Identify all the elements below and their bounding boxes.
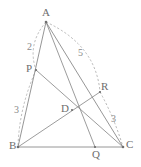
point-label-q: Q bbox=[92, 149, 100, 160]
cevian-b-r bbox=[18, 92, 100, 147]
point-label-b: B bbox=[9, 140, 16, 151]
measure-label-ap: 2 bbox=[27, 42, 32, 52]
side-ab bbox=[18, 22, 46, 147]
point-label-p: P bbox=[26, 63, 32, 74]
point-label-c: C bbox=[126, 139, 133, 150]
figure-canvas bbox=[0, 0, 141, 167]
vertex-dot-b bbox=[17, 146, 20, 149]
geometry-figure: A B C P Q R D 2 3 5 3 bbox=[0, 0, 141, 167]
measure-label-ar: 5 bbox=[78, 48, 83, 58]
measure-label-rc: 3 bbox=[111, 114, 116, 124]
point-label-d: D bbox=[61, 103, 69, 114]
measure-label-pb: 3 bbox=[14, 105, 19, 115]
vertex-dot-a bbox=[45, 21, 48, 24]
side-ac bbox=[46, 22, 123, 147]
vertex-dot-d bbox=[71, 109, 73, 111]
point-label-r: R bbox=[101, 81, 108, 92]
point-label-a: A bbox=[42, 7, 50, 18]
cevian-c-p bbox=[36, 70, 123, 147]
vertex-dot-c bbox=[122, 146, 125, 149]
vertex-dot-p bbox=[35, 69, 37, 71]
cevian-a-q bbox=[46, 22, 95, 147]
arc-a-to-r bbox=[46, 22, 100, 92]
